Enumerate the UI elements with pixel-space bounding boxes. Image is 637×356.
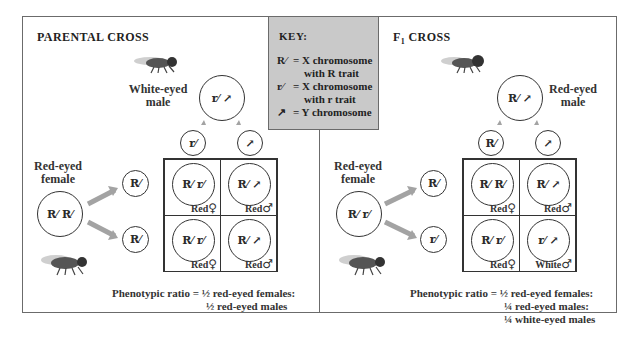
cell-genotype: R⁄ R⁄ bbox=[471, 163, 514, 206]
male-symbol-icon: ♂ bbox=[561, 257, 572, 271]
gamete-text: R⁄ bbox=[428, 177, 439, 190]
phenotype-text: Red bbox=[490, 203, 507, 214]
genotype-text: R⁄ r⁄ bbox=[348, 208, 370, 221]
label-line: female bbox=[330, 173, 386, 186]
f1-punnett-square: R⁄ R⁄ Red♀ R⁄ ↗ Red♂ R⁄ r⁄ Red♀ r⁄ ↗ Whi… bbox=[462, 158, 577, 272]
phenotype-text: Red bbox=[544, 203, 561, 214]
genotype-text: r⁄ ↗ bbox=[538, 234, 559, 247]
punnett-cell: R⁄ r⁄ Red♀ bbox=[463, 215, 520, 272]
female-symbol-icon: ♀ bbox=[507, 257, 516, 271]
genotype-text: R⁄ R⁄ bbox=[480, 178, 506, 191]
f1-male-gamete-1: R⁄ bbox=[478, 130, 504, 156]
cell-phenotype: Red♀ bbox=[490, 257, 516, 271]
genotype-text: R⁄ ↗ bbox=[536, 178, 560, 191]
f1-female-genotype: R⁄ r⁄ bbox=[336, 191, 382, 237]
gamete-text: r⁄ bbox=[430, 233, 438, 246]
cell-genotype: R⁄ r⁄ bbox=[471, 219, 514, 262]
genotype-text: R⁄ r⁄ bbox=[481, 234, 503, 247]
f1-female-gamete-2: r⁄ bbox=[420, 226, 447, 253]
f1-ratio: Phenotypic ratio = ½ red-eyed females: bbox=[410, 287, 593, 300]
phenotype-text: White bbox=[535, 259, 561, 270]
female-symbol-icon: ♀ bbox=[507, 201, 516, 215]
punnett-cell: r⁄ ↗ White♂ bbox=[519, 215, 576, 272]
cell-genotype: r⁄ ↗ bbox=[527, 219, 570, 262]
cell-phenotype: White♂ bbox=[535, 257, 572, 271]
male-symbol-icon: ♂ bbox=[561, 201, 572, 215]
ratio-line: ½ red-eyed females: bbox=[500, 287, 594, 299]
f1-female-label: Red-eyed female bbox=[330, 160, 386, 186]
gamete-text: R⁄ bbox=[486, 137, 497, 150]
punnett-cell: R⁄ R⁄ Red♀ bbox=[463, 159, 520, 216]
f1-ratio-line-2: ¼ red-eyed males: bbox=[504, 300, 589, 313]
cell-phenotype: Red♂ bbox=[544, 201, 572, 215]
cell-phenotype: Red♀ bbox=[490, 201, 516, 215]
f1-ratio-line-3: ¼ white-eyed males bbox=[504, 313, 595, 326]
ratio-prefix: Phenotypic ratio = bbox=[410, 287, 497, 299]
gamete-text: ↗ bbox=[543, 137, 552, 150]
punnett-cell: R⁄ ↗ Red♂ bbox=[519, 159, 576, 216]
f1-female-gamete-1: R⁄ bbox=[420, 170, 447, 197]
phenotype-text: Red bbox=[490, 259, 507, 270]
fly-female-icon bbox=[338, 250, 390, 276]
cell-genotype: R⁄ ↗ bbox=[527, 163, 570, 206]
f1-male-gamete-2: ↗ bbox=[535, 130, 561, 156]
